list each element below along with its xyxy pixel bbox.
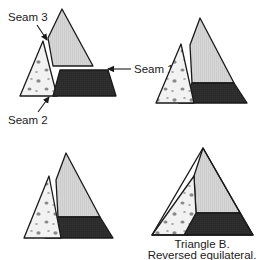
seam-2-label: Seam 2 bbox=[8, 114, 48, 126]
piece-bottom-trapezoid bbox=[53, 70, 116, 96]
caption-line-2: Reversed equilateral. bbox=[148, 249, 257, 260]
figure-root: Seam 3 Seam 2 Seam 1 bbox=[0, 0, 264, 260]
seam-3-label: Seam 3 bbox=[8, 11, 48, 23]
seam-1-label: Seam 1 bbox=[134, 63, 174, 75]
triangle-assembly-diagram: Seam 3 Seam 2 Seam 1 bbox=[0, 0, 264, 260]
